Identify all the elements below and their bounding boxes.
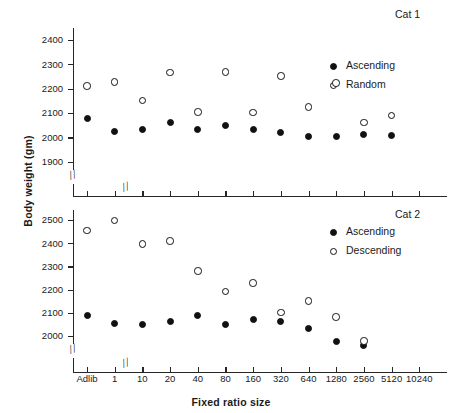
data-point <box>111 320 118 327</box>
data-point <box>222 122 229 129</box>
x-axis-tick <box>115 191 116 196</box>
x-axis-tick <box>87 191 88 196</box>
x-axis-tick <box>115 367 116 372</box>
y-axis-tick-label: 2200 <box>29 84 63 94</box>
data-point <box>305 133 312 140</box>
data-point <box>305 297 313 305</box>
filled-circle-icon <box>330 63 337 70</box>
x-axis-tick <box>419 191 420 196</box>
y-axis-tick <box>68 336 73 337</box>
data-point <box>222 288 230 296</box>
y-axis-tick <box>68 113 73 114</box>
data-point <box>277 309 285 317</box>
data-point <box>277 72 285 80</box>
x-axis-tick <box>281 191 282 196</box>
y-axis-tick-label: 2300 <box>29 60 63 70</box>
y-axis-tick <box>68 137 73 138</box>
y-axis-break-mark: // <box>68 343 78 355</box>
data-point <box>139 97 147 105</box>
data-point <box>84 115 91 122</box>
legend-label: Ascending <box>346 225 395 237</box>
y-axis-break-mark: // <box>68 169 78 181</box>
y-axis-tick-label: 2400 <box>29 35 63 45</box>
data-point <box>332 79 340 87</box>
data-point <box>111 78 119 86</box>
x-axis-tick <box>142 367 143 372</box>
y-axis-tick <box>68 313 73 314</box>
y-axis-tick-label: 2300 <box>29 262 63 272</box>
panel-title-cat-2: Cat 2 <box>395 208 420 220</box>
data-point <box>360 131 367 138</box>
y-axis-tick <box>68 243 73 244</box>
data-point <box>222 68 230 76</box>
x-axis-break-mark: // <box>120 181 130 193</box>
x-axis-tick <box>225 191 226 196</box>
data-point <box>250 126 257 133</box>
y-axis-tick <box>68 64 73 65</box>
data-point <box>139 126 146 133</box>
data-point <box>333 338 340 345</box>
data-point <box>111 217 119 225</box>
data-point <box>167 318 174 325</box>
x-axis-title: Fixed ratio size <box>0 396 462 408</box>
data-point <box>332 313 340 321</box>
y-axis-tick-label: 2000 <box>29 331 63 341</box>
y-axis-tick-label: 1900 <box>29 157 63 167</box>
figure-body-weight-vs-fixed-ratio: Body weight (gm) Fixed ratio size Cat 1 … <box>0 0 462 413</box>
y-axis-line <box>73 28 74 170</box>
y-axis-tick-label: 2100 <box>29 108 63 118</box>
x-axis-line <box>73 196 447 197</box>
x-axis-tick <box>364 367 365 372</box>
data-point <box>277 129 284 136</box>
data-point <box>360 119 368 127</box>
data-point <box>194 108 202 116</box>
filled-circle-icon <box>330 229 337 236</box>
data-point <box>388 112 396 120</box>
y-axis-tick-label: 2500 <box>29 215 63 225</box>
open-circle-icon <box>330 248 337 255</box>
data-point <box>194 312 201 319</box>
y-axis-tick-label: 2200 <box>29 285 63 295</box>
data-point <box>305 325 312 332</box>
y-axis-tick <box>68 162 73 163</box>
x-axis-tick <box>170 191 171 196</box>
x-axis-tick <box>253 191 254 196</box>
x-axis-tick <box>419 367 420 372</box>
y-axis-tick-label: 2000 <box>29 133 63 143</box>
y-axis-tick <box>68 290 73 291</box>
data-point <box>111 128 118 135</box>
y-axis-tick-label: 2100 <box>29 308 63 318</box>
x-axis-tick <box>225 367 226 372</box>
x-axis-break-mark: // <box>120 357 130 369</box>
x-axis-tick <box>87 367 88 372</box>
data-point <box>84 312 91 319</box>
x-axis-tick <box>253 367 254 372</box>
legend-label: Random <box>346 78 386 90</box>
data-point <box>360 337 368 345</box>
y-axis-title: Body weight (gm) <box>22 101 34 261</box>
x-axis-tick <box>336 191 337 196</box>
x-axis-tick <box>198 191 199 196</box>
legend-label: Descending <box>346 244 401 256</box>
x-axis-tick <box>309 367 310 372</box>
data-point <box>166 237 174 245</box>
data-point <box>249 109 257 117</box>
x-axis-tick <box>309 191 310 196</box>
x-axis-tick <box>142 191 143 196</box>
y-axis-line-lower <box>73 358 74 372</box>
x-axis-tick <box>392 191 393 196</box>
x-axis-tick-label: 10240 <box>399 374 439 384</box>
x-axis-tick <box>198 367 199 372</box>
data-point <box>166 69 174 77</box>
data-point <box>167 119 174 126</box>
data-point <box>277 318 284 325</box>
data-point <box>194 126 201 133</box>
data-point <box>83 227 91 235</box>
x-axis-tick <box>336 367 337 372</box>
x-axis-tick <box>170 367 171 372</box>
legend-label: Ascending <box>346 59 395 71</box>
panel-title-cat-1: Cat 1 <box>395 8 420 20</box>
y-axis-tick <box>68 40 73 41</box>
y-axis-line <box>73 210 74 344</box>
y-axis-tick <box>68 89 73 90</box>
